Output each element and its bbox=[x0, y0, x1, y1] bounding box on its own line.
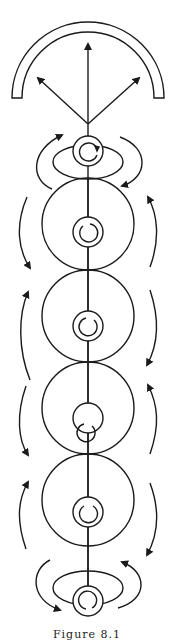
arrow-up-right-icon bbox=[88, 78, 139, 124]
arrow-curve-icon bbox=[148, 197, 157, 267]
arrow-curve-icon bbox=[19, 386, 28, 455]
arrow-curve-icon bbox=[36, 560, 60, 610]
large-circle-1 bbox=[42, 178, 134, 270]
arrow-curve-icon bbox=[147, 290, 156, 365]
arrow-curve-icon bbox=[21, 292, 30, 380]
large-circle-4 bbox=[42, 454, 134, 546]
figure-caption: Figure 8.1 bbox=[0, 628, 174, 641]
arrow-curve-icon bbox=[147, 483, 156, 555]
emission-arrows bbox=[38, 44, 139, 124]
arrow-curve-icon bbox=[118, 562, 141, 608]
arrow-curve-icon bbox=[148, 385, 157, 454]
arrow-curve-icon bbox=[19, 197, 30, 268]
large-circle-3 bbox=[42, 362, 134, 454]
left-circulation-arrows bbox=[19, 135, 62, 610]
right-circulation-arrows bbox=[118, 137, 157, 608]
arrow-curve-icon bbox=[37, 135, 62, 189]
arrow-curve-icon bbox=[19, 482, 28, 549]
large-circle-2 bbox=[42, 270, 134, 362]
arrow-up-left-icon bbox=[38, 78, 88, 124]
bottom-coil bbox=[53, 546, 123, 616]
